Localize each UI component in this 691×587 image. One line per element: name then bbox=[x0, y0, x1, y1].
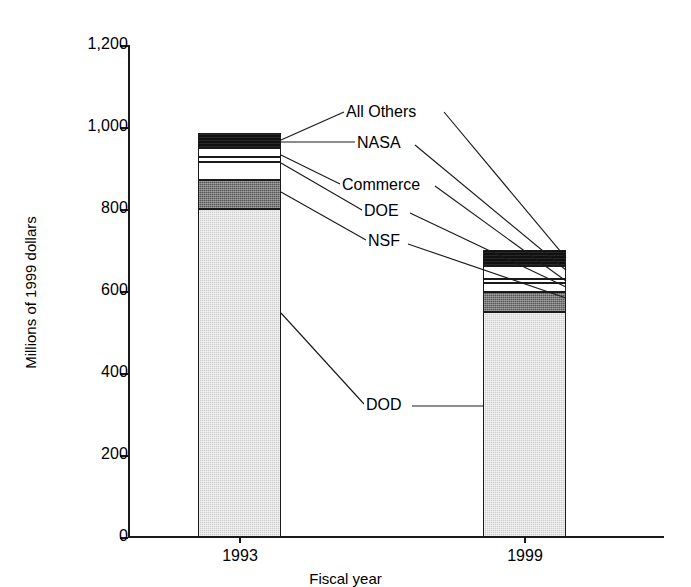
callout-label-all-others: All Others bbox=[344, 103, 418, 120]
leader-nsf-1999 bbox=[408, 244, 566, 298]
callout-label-dod: DOD bbox=[364, 396, 404, 413]
callout-label-nsf: NSF bbox=[366, 232, 402, 249]
callout-label-nasa: NASA bbox=[355, 134, 403, 151]
leader-commerce-1999 bbox=[435, 186, 566, 281]
callout-label-doe: DOE bbox=[362, 202, 401, 219]
leader-nsf-1993 bbox=[281, 192, 366, 240]
callout-label-commerce: Commerce bbox=[340, 176, 422, 193]
leader-all-others-1993 bbox=[281, 112, 344, 140]
leader-dod-1993 bbox=[281, 313, 364, 404]
